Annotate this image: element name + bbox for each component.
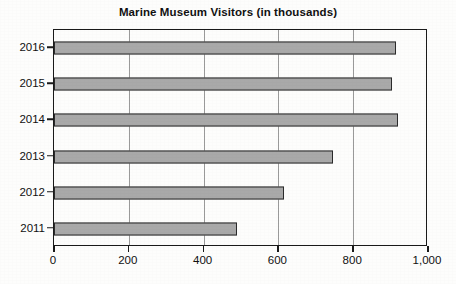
x-axis-tick-200 — [128, 246, 130, 252]
x-axis-tick-label-0: 0 — [23, 254, 83, 266]
bar-2012 — [54, 186, 284, 199]
y-axis-tick-label-2012: 2012 — [0, 186, 45, 198]
y-axis-labels: 201620152014201320122011 — [0, 29, 53, 246]
bar-chart: Marine Museum Visitors (in thousands) 20… — [0, 0, 456, 284]
x-axis-tick-800 — [352, 246, 354, 252]
bar-2013 — [54, 150, 333, 163]
y-axis-tick-label-2011: 2011 — [0, 222, 45, 234]
bar-row — [54, 102, 426, 138]
bar-row — [54, 139, 426, 175]
y-axis-tick-label-2016: 2016 — [0, 41, 45, 53]
x-axis-tick-label-200: 200 — [98, 254, 158, 266]
bar-2011 — [54, 222, 237, 235]
bar-2014 — [54, 114, 398, 127]
y-axis-tick-label-2014: 2014 — [0, 113, 45, 125]
x-axis-tick-label-1,000: 1,000 — [397, 254, 456, 266]
x-axis-tick-400 — [203, 246, 205, 252]
x-axis-tick-label-400: 400 — [173, 254, 233, 266]
bar-row — [54, 30, 426, 66]
x-axis-tick-0 — [53, 246, 55, 252]
plot-area — [53, 29, 427, 246]
x-axis-tick-1,000 — [427, 246, 429, 252]
x-axis-tick-label-800: 800 — [322, 254, 382, 266]
x-axis-tick-600 — [277, 246, 279, 252]
bar-2016 — [54, 42, 396, 55]
bar-row — [54, 175, 426, 211]
x-axis-tick-label-600: 600 — [247, 254, 307, 266]
bar-2015 — [54, 78, 392, 91]
bar-row — [54, 211, 426, 247]
y-axis-tick-label-2015: 2015 — [0, 77, 45, 89]
bar-row — [54, 66, 426, 102]
y-axis-tick-label-2013: 2013 — [0, 150, 45, 162]
chart-title: Marine Museum Visitors (in thousands) — [0, 6, 456, 18]
